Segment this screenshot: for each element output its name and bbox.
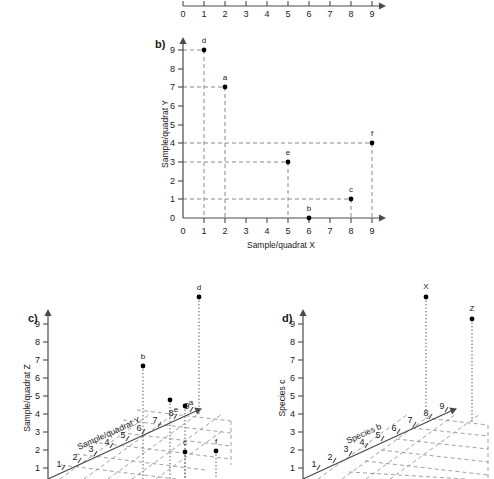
point-label: d [202, 36, 206, 45]
panel-d: d) 1 [277, 282, 488, 479]
panel-d-z-tick-label: 8 [290, 337, 295, 347]
panel-d-z-tick-label: 2 [290, 445, 295, 455]
point-label: f [215, 437, 218, 446]
panel-a-partial: 0 1 2 3 4 5 6 7 8 9 [180, 1, 386, 19]
panel-d-y-tick-label: 1 [311, 459, 316, 469]
panel-c-z-tick-label: 9 [35, 319, 40, 329]
panel-b-x-tick-label: 2 [222, 226, 227, 236]
panel-b-y-tick-label: 9 [170, 45, 175, 55]
panel-b-x-tick-label: 5 [285, 226, 290, 236]
panel-d-z-tick-label: 4 [290, 409, 295, 419]
data-point [470, 317, 475, 322]
panel-c-z-tick-label: 1 [35, 463, 40, 473]
point-label: X [423, 282, 429, 291]
panel-a-x-arrow [379, 2, 386, 9]
panel-b-y-tick-label: 7 [170, 82, 175, 92]
panel-b-y-tick-label: 1 [170, 194, 175, 204]
panel-c: c) [22, 283, 231, 479]
panel-b-x-tick-label: 9 [369, 226, 374, 236]
panel-d-y-tick-label: 2 [327, 452, 332, 462]
panel-b-y-tick-label: 6 [170, 101, 175, 111]
point-label: b [141, 352, 146, 361]
panel-c-z-tick-label: 7 [35, 355, 40, 365]
panel-a-tick-label: 1 [201, 9, 206, 19]
data-point [223, 85, 228, 90]
data-point [370, 141, 375, 146]
panel-b-x-tick-label: 1 [201, 226, 206, 236]
panel-a-tick-labels: 0 1 2 3 4 5 6 7 8 9 [180, 9, 374, 19]
panel-b-y-tick-label: 8 [170, 64, 175, 74]
panel-a-tick-label: 8 [348, 9, 353, 19]
panel-c-y-tick-label: 8 [168, 408, 173, 418]
panel-d-y-tick-label: 7 [407, 415, 412, 425]
data-point [286, 160, 291, 165]
panel-b-y-tick-label: 0 [170, 213, 175, 223]
data-point [183, 450, 188, 455]
panel-b-x-tick-label: 6 [306, 226, 311, 236]
panel-b-x-tick-labels: 0 1 2 3 4 5 6 7 8 9 [180, 226, 374, 236]
panel-a-tick-label: 5 [285, 9, 290, 19]
point-label: a [223, 73, 228, 82]
point-label: Z [470, 304, 475, 313]
point-label: e [174, 405, 179, 414]
data-point [214, 449, 219, 454]
panel-d-y-tick-label: 9 [439, 401, 444, 411]
panel-b-label: b) [155, 38, 166, 50]
panel-b-x-tick-label: 7 [327, 226, 332, 236]
data-point [183, 404, 188, 409]
panel-d-z-arrow [299, 309, 306, 316]
panel-d-z-tick-label: 3 [290, 427, 295, 437]
panel-c-y-tick-label: 1 [56, 459, 61, 469]
data-point [424, 295, 429, 300]
panel-c-z-tick-label: 6 [35, 373, 40, 383]
panel-c-z-arrow [44, 309, 51, 316]
panel-b-points [202, 48, 375, 221]
figure-container: 0 1 2 3 4 5 6 7 8 9 b) [0, 0, 494, 479]
panel-a-tick-label: 7 [327, 9, 332, 19]
panel-d-z-tick-labels: 1 2 3 4 5 6 7 8 9 [290, 319, 295, 473]
panel-d-drop-lines [426, 297, 472, 422]
panel-a-tick-label: 2 [222, 9, 227, 19]
panel-b-y-tick-labels: 0 1 2 3 4 5 6 7 8 9 [170, 45, 175, 223]
point-label: d [197, 283, 201, 292]
panel-d-y-tick-label: 6 [391, 423, 396, 433]
panel-b-y-ticks [178, 50, 183, 199]
panel-b-x-ticks [204, 218, 372, 223]
figure-svg: 0 1 2 3 4 5 6 7 8 9 b) [0, 0, 494, 479]
panel-b-x-arrow [379, 214, 386, 221]
panel-a-tick-label: 0 [180, 9, 185, 19]
panel-d-z-axis-title: Species c [277, 379, 287, 417]
panel-c-y-tick-label: 2 [72, 452, 77, 462]
point-label: a [189, 398, 194, 407]
panel-c-z-ticks [43, 324, 48, 468]
panel-d-z-ticks [298, 324, 303, 468]
data-point [202, 48, 207, 53]
point-label: e [286, 148, 291, 157]
data-point [307, 216, 312, 221]
panel-a-tick-label: 4 [264, 9, 269, 19]
panel-c-y-tick-label: 7 [152, 415, 157, 425]
panel-b-y-tick-label: 3 [170, 157, 175, 167]
panel-c-z-tick-label: 3 [35, 427, 40, 437]
panel-b-x-tick-label: 4 [264, 226, 269, 236]
point-label: b [307, 204, 312, 213]
panel-a-tick-label: 3 [243, 9, 248, 19]
panel-b-x-tick-label: 3 [243, 226, 248, 236]
data-point [168, 398, 173, 403]
panel-b-y-tick-label: 2 [170, 176, 175, 186]
panel-b-y-tick-label: 5 [170, 120, 175, 130]
point-label: c [183, 438, 187, 447]
data-point [197, 295, 202, 300]
panel-a-tick-label: 9 [369, 9, 374, 19]
data-point [349, 197, 354, 202]
panel-c-drop-lines [143, 297, 216, 479]
panel-b-x-tick-label: 0 [180, 226, 185, 236]
panel-b-x-tick-label: 8 [348, 226, 353, 236]
panel-c-z-tick-label: 2 [35, 445, 40, 455]
panel-d-point-labels: X Z [423, 282, 474, 313]
panel-d-z-tick-label: 1 [290, 463, 295, 473]
panel-d-points [424, 295, 475, 322]
panel-d-y-tick-labels: 1 2 3 4 5 6 7 8 9 [311, 401, 444, 469]
panel-b-guide-lines [183, 50, 372, 218]
panel-b-y-tick-label: 4 [170, 138, 175, 148]
